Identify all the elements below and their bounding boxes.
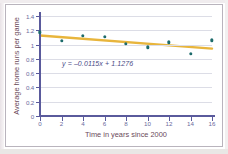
y-axis-tick-label: 0 [31,113,34,120]
y-axis-tick-label: 0.4 [26,84,34,91]
gridline [40,73,212,74]
y-axis-tick [36,102,41,103]
x-axis-tick-label: 6 [103,120,106,127]
y-axis-tick-label: 1 [31,41,34,48]
y-axis-tick [36,59,41,60]
gridline [40,102,212,103]
chart-figure: Average home runs per game 00.20.40.60.8… [0,0,228,154]
y-axis-tick [36,87,41,88]
x-axis-tick-label: 12 [166,120,173,127]
page-edge-right [225,0,228,154]
regression-equation-label: y = –0.0115x + 1.1276 [62,60,133,67]
y-axis-tick-label: 1.4 [26,13,34,20]
page-edge-top [0,0,228,3]
y-axis-title-text: Average home runs per game [12,16,21,116]
x-axis-line [39,115,215,117]
x-axis-tick-label: 0 [38,120,41,127]
x-axis-title: Time in years since 2000 [40,130,212,139]
y-axis-tick-label: 0.6 [26,70,34,77]
y-axis-title: Average home runs per game [12,0,22,16]
x-axis-tick-label: 2 [60,120,63,127]
y-axis-tick-label: 0.2 [26,98,34,105]
gridline [40,30,212,31]
x-axis-tick-label: 10 [144,120,151,127]
x-axis-tick-label: 4 [81,120,84,127]
x-axis-tick-label: 16 [209,120,216,127]
y-axis-tick [36,45,41,46]
y-axis-tick [36,73,41,74]
page-edge-left [0,0,4,154]
y-axis-tick-label: 0.8 [26,55,34,62]
x-axis-tick-label: 14 [187,120,194,127]
y-axis-tick [36,16,41,17]
page-edge-bottom [0,149,228,154]
x-axis-tick-label: 8 [124,120,127,127]
gridline [40,16,212,17]
gridline [40,87,212,88]
y-axis-tick-label: 1.2 [26,27,34,34]
